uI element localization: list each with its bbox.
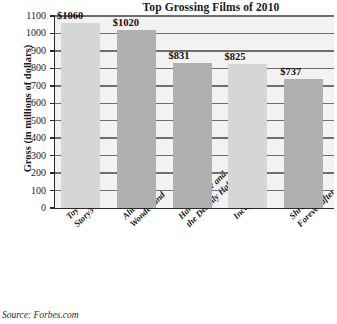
bar [173,63,212,208]
y-axis-tick [50,207,55,209]
bar [284,79,323,208]
bar [61,23,100,208]
y-axis-tick-label: 900 [6,46,46,56]
bar-value-label: $825 [224,51,245,62]
bar-value-label: $1060 [57,10,83,21]
y-axis-tick-label: 700 [6,81,46,91]
y-axis-tick-label: 600 [6,98,46,108]
y-axis-tick-label: 500 [6,116,46,126]
y-axis-tick-label: 200 [6,168,46,178]
y-axis-tick-label: 100 [6,186,46,196]
bar-value-label: $737 [280,66,301,77]
gridline [55,15,334,17]
chart-title: Top Grossing Films of 2010 [96,1,326,13]
bar [228,64,267,208]
y-axis-tick-label: 0 [6,203,46,213]
plot-area [54,16,334,209]
bar-value-label: $831 [169,50,190,61]
y-axis-tick-label: 1000 [6,28,46,38]
y-axis-tick-label: 300 [6,151,46,161]
bar-value-label: $1020 [113,17,139,28]
bar [117,30,156,208]
y-axis-tick-label: 1100 [6,11,46,21]
y-axis-tick-label: 800 [6,63,46,73]
y-axis-tick-label: 400 [6,133,46,143]
source-note: Source: Forbes.com [2,310,79,320]
